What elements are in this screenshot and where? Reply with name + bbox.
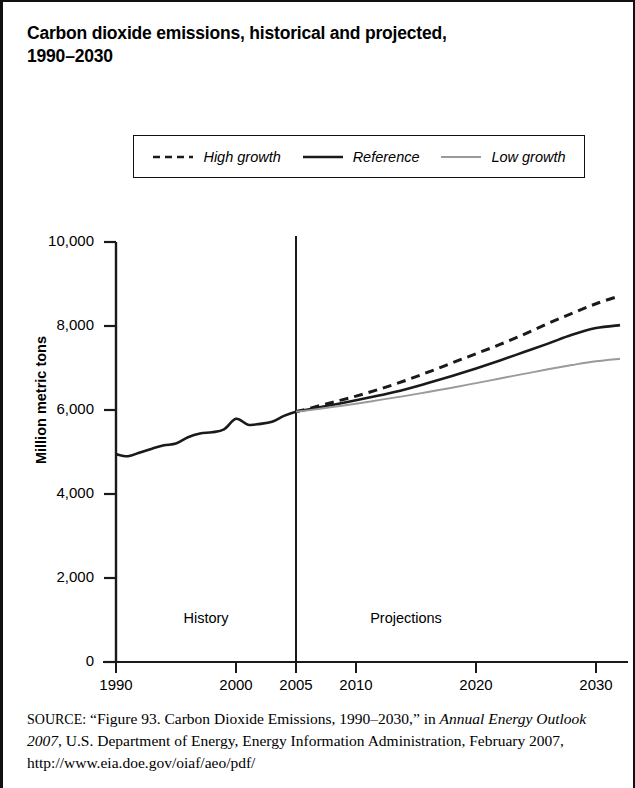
- source-text-1: “Figure 93. Carbon Dioxide Emissions, 19…: [90, 710, 440, 727]
- region-label-projections: Projections: [316, 610, 496, 626]
- figure-page: Carbon dioxide emissions, historical and…: [0, 0, 635, 788]
- source-note: SOURCE: “Figure 93. Carbon Dioxide Emiss…: [27, 708, 622, 774]
- chart-axes: [103, 236, 628, 673]
- chart-series: [116, 296, 620, 456]
- source-text-2: , U.S. Department of Energy, Energy Info…: [27, 732, 564, 771]
- y-axis-tick-label: 6,000: [6, 400, 94, 417]
- series-line-reference: [116, 325, 620, 456]
- y-axis-tick-label: 0: [6, 652, 94, 669]
- x-axis-tick-label: 2020: [436, 676, 516, 693]
- source-label: SOURCE:: [27, 712, 86, 727]
- chart-canvas: [3, 2, 635, 702]
- x-axis-tick-label: 1990: [76, 676, 156, 693]
- chart-plot-area: Million metric tons 02,0004,0006,0008,00…: [3, 2, 635, 702]
- y-axis-tick-label: 10,000: [6, 232, 94, 249]
- x-axis-tick-label: 2010: [316, 676, 396, 693]
- region-label-history: History: [136, 610, 276, 626]
- y-axis-tick-label: 2,000: [6, 568, 94, 585]
- y-axis-tick-label: 8,000: [6, 316, 94, 333]
- y-axis-tick-label: 4,000: [6, 484, 94, 501]
- x-axis-tick-label: 2030: [556, 676, 635, 693]
- series-line-high-growth: [296, 296, 620, 412]
